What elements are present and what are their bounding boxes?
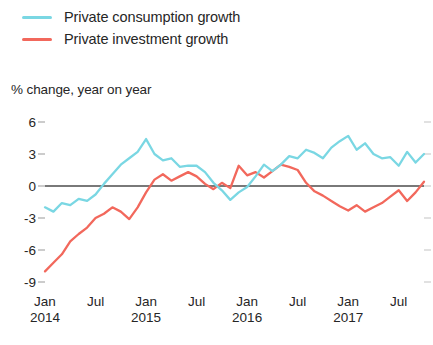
series-line-consumption [45, 136, 424, 212]
x-axis-tick-year: 2016 [232, 310, 262, 326]
y-axis-tick-mark [38, 186, 45, 187]
y-axis-tick-mark [38, 250, 45, 251]
x-axis-tick-month: Jan [337, 294, 359, 309]
y-axis-tick-mark-right [424, 218, 431, 219]
y-axis-tick-label: 6 [28, 115, 36, 130]
x-axis-tick-year: 2017 [333, 310, 363, 326]
x-axis-tick-month: Jul [289, 294, 306, 309]
y-axis-tick-mark-right [424, 250, 431, 251]
x-axis-tick-month: Jan [34, 294, 56, 309]
chart-legend: Private consumption growth Private inves… [22, 6, 352, 50]
x-axis-tick-label: Jul [289, 294, 306, 310]
y-axis-tick-label: -9 [24, 275, 36, 290]
x-axis-tick-label: Jul [87, 294, 104, 310]
y-axis-tick-label: 3 [28, 147, 36, 162]
x-axis-tick-label: Jul [188, 294, 205, 310]
series-line-investment [45, 165, 424, 272]
x-axis-tick-month: Jul [188, 294, 205, 309]
chart-plot-area [0, 0, 433, 345]
chart-figure: Private consumption growth Private inves… [0, 0, 433, 345]
legend-item-consumption: Private consumption growth [22, 6, 352, 28]
y-axis-tick-mark-right [424, 186, 431, 187]
y-axis-tick-mark [38, 154, 45, 155]
y-axis-tick-mark [38, 218, 45, 219]
x-axis-tick-month: Jul [390, 294, 407, 309]
x-axis-tick-label: Jan2015 [131, 294, 161, 326]
x-axis-tick-label: Jan2017 [333, 294, 363, 326]
x-axis-tick-label: Jul [390, 294, 407, 310]
y-axis-tick-mark [38, 122, 45, 123]
y-axis-tick-mark [38, 282, 45, 283]
y-axis-tick-label: -6 [24, 243, 36, 258]
legend-label-consumption: Private consumption growth [64, 9, 240, 25]
legend-label-investment: Private investment growth [64, 31, 228, 47]
x-axis-tick-month: Jan [135, 294, 157, 309]
y-axis-tick-mark-right [424, 282, 431, 283]
x-axis-tick-year: 2014 [30, 310, 60, 326]
x-axis-tick-label: Jan2014 [30, 294, 60, 326]
y-axis-tick-mark-right [424, 154, 431, 155]
x-axis-tick-label: Jan2016 [232, 294, 262, 326]
y-axis-tick-label: 0 [28, 179, 36, 194]
y-axis-tick-mark-right [424, 122, 431, 123]
x-axis-tick-year: 2015 [131, 310, 161, 326]
y-axis-tick-label: -3 [24, 211, 36, 226]
x-axis-tick-month: Jan [236, 294, 258, 309]
legend-item-investment: Private investment growth [22, 28, 352, 50]
x-axis-tick-month: Jul [87, 294, 104, 309]
